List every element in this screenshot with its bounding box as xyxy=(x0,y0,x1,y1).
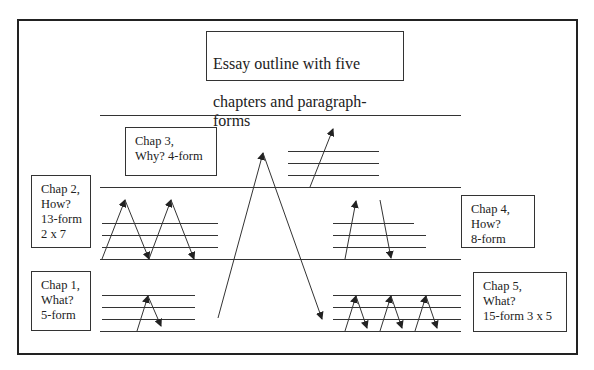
chap5-arrow xyxy=(415,296,426,331)
chap5-arrow xyxy=(426,296,437,328)
chap2-arrow xyxy=(171,200,194,259)
chap5-arrow xyxy=(380,296,391,331)
chap5-arrow xyxy=(356,296,367,328)
chap2-arrow xyxy=(102,200,125,259)
chap5-arrow xyxy=(391,296,402,328)
chapter-5-box: Chap 5, What? 15-form 3 x 5 xyxy=(473,272,567,332)
main-arrow-up xyxy=(218,153,263,318)
chapter-1-box: Chap 1, What? 5-form xyxy=(31,271,91,331)
chapter-3-box: Chap 3, Why? 4-form xyxy=(125,127,217,176)
chapter-2-box: Chap 2, How? 13-form 2 x 7 xyxy=(31,175,91,248)
chap1-arrow xyxy=(148,296,161,326)
chap3-arrow xyxy=(310,129,333,187)
chap4-arrow xyxy=(345,201,356,259)
chap1-arrow xyxy=(137,296,148,331)
chap5-arrow xyxy=(345,296,356,331)
chap4-arrow xyxy=(380,200,391,258)
chapter-4-box: Chap 4, How? 8-form xyxy=(461,195,535,248)
chap2-arrow xyxy=(149,200,171,259)
chap2-arrow xyxy=(125,200,149,259)
